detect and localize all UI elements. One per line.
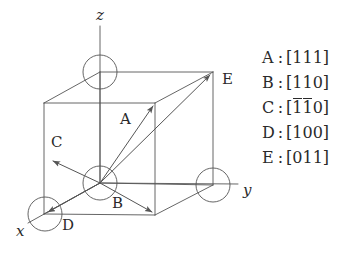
- miller-digit: 0: [313, 123, 323, 142]
- legend-colon: :: [275, 148, 286, 167]
- vector-label-c: C: [51, 135, 62, 150]
- miller-digit: 0: [313, 98, 323, 117]
- legend-row: B:[110]: [262, 73, 357, 98]
- miller-digit: 1: [292, 73, 302, 92]
- y-axis-label: y: [243, 183, 251, 198]
- x-axis-label: x: [16, 224, 24, 239]
- legend-key: A: [262, 48, 275, 67]
- vector-label-b: B: [112, 196, 123, 211]
- legend-row: E:[011]: [262, 148, 357, 173]
- bracket-close: ]: [323, 123, 329, 142]
- miller-index-legend: A:[111]B:[110]C:[110]D:[100]E:[011]: [262, 48, 357, 173]
- legend-colon: :: [275, 123, 286, 142]
- bracket-close: ]: [323, 48, 329, 67]
- legend-row: C:[110]: [262, 98, 357, 123]
- legend-key: D: [262, 123, 275, 142]
- bracket-close: ]: [323, 148, 329, 167]
- miller-digit: 0: [292, 148, 302, 167]
- legend-miller-index: [110]: [286, 73, 329, 92]
- legend-miller-index: [011]: [286, 148, 329, 167]
- legend-miller-index: [111]: [286, 48, 329, 67]
- legend-colon: :: [275, 98, 286, 117]
- legend-row: A:[111]: [262, 48, 357, 73]
- atom-x-axis: [28, 197, 62, 231]
- miller-digit: 1: [292, 123, 302, 142]
- legend-colon: :: [275, 48, 286, 67]
- legend-key: B: [262, 73, 275, 92]
- miller-digit: 0: [302, 123, 312, 142]
- miller-digit: 1: [302, 73, 312, 92]
- legend-colon: :: [275, 73, 286, 92]
- bracket-close: ]: [323, 73, 329, 92]
- legend-miller-index: [110]: [286, 98, 329, 117]
- miller-digit: 0: [313, 73, 323, 92]
- vector-label-e: E: [222, 72, 233, 87]
- atom-top-z: [83, 55, 117, 89]
- legend-row: D:[100]: [262, 123, 357, 148]
- legend-key: E: [262, 148, 275, 167]
- miller-digit-barred: 1: [302, 98, 312, 117]
- miller-digit: 1: [302, 148, 312, 167]
- vector-label-a: A: [120, 112, 131, 127]
- miller-digit: 1: [313, 148, 323, 167]
- direction-vectors: [48, 75, 210, 212]
- legend-miller-index: [100]: [286, 123, 329, 142]
- bracket-close: ]: [323, 98, 329, 117]
- vector-label-d: D: [62, 218, 74, 233]
- atom-y-axis: [196, 168, 230, 202]
- miller-digit: 1: [313, 48, 323, 67]
- miller-digit: 1: [292, 48, 302, 67]
- legend-key: C: [262, 98, 275, 117]
- z-axis-label: z: [96, 8, 104, 23]
- miller-digit-barred: 1: [292, 98, 302, 117]
- cube-edges: [44, 72, 213, 215]
- miller-digit: 1: [302, 48, 312, 67]
- cube-edge-depth-top-right: [155, 72, 213, 103]
